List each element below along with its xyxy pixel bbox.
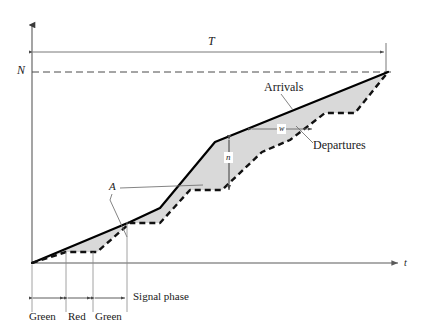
figure-canvas: N t T Arrivals Departures A n w Signal p… [0, 0, 424, 333]
queue-area-fill [32, 72, 388, 263]
arrivals-label: Arrivals [264, 81, 303, 93]
queueing-diagram-svg [0, 0, 424, 333]
area-label: A [109, 181, 116, 192]
y-axis-label: N [17, 64, 25, 76]
queue-length-label: n [224, 152, 233, 163]
phase-label-green-1: Green [29, 311, 56, 322]
x-axis-label: t [404, 258, 407, 268]
phase-label-red: Red [68, 311, 86, 322]
phase-label-green-2: Green [95, 311, 122, 322]
cycle-span-label: T [208, 35, 215, 47]
signal-phase-caption: Signal phase [133, 291, 189, 302]
delay-label: w [277, 124, 286, 134]
arrivals-leader [281, 94, 293, 110]
departures-label: Departures [313, 139, 366, 151]
